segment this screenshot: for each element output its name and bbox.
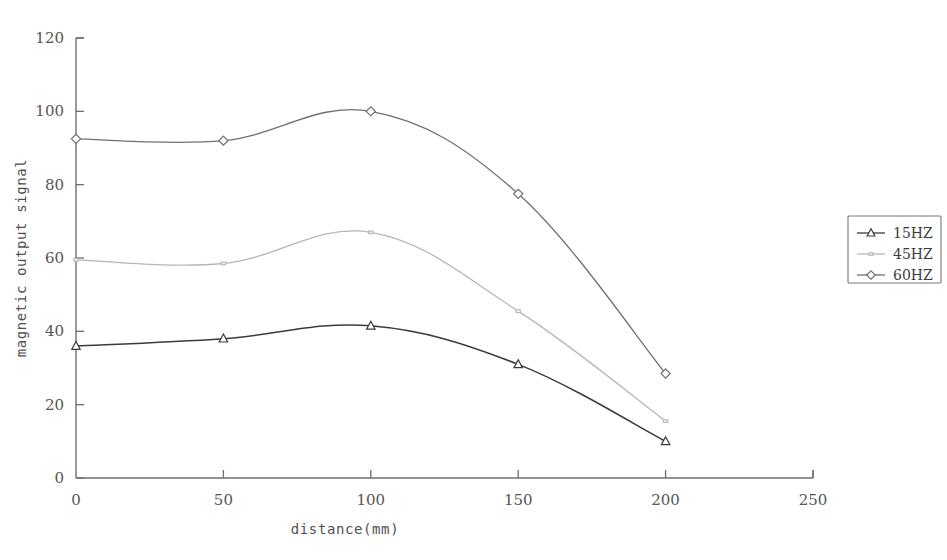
data-point-marker — [516, 310, 520, 313]
data-point-marker — [663, 420, 667, 423]
y-axis-title: magnetic output signal — [13, 159, 29, 358]
y-tick-label: 0 — [54, 469, 64, 487]
y-tick-label: 120 — [35, 29, 64, 47]
y-tick-label: 100 — [35, 102, 64, 120]
x-axis-title: distance(mm) — [291, 521, 399, 537]
x-tick-label: 50 — [214, 491, 233, 509]
y-tick-label: 60 — [45, 249, 64, 267]
data-point-marker — [74, 259, 78, 262]
legend-item-label: 45HZ — [893, 246, 933, 262]
x-tick-label: 0 — [71, 491, 81, 509]
legend-item-label: 60HZ — [893, 267, 933, 283]
chart-legend[interactable]: 15HZ45HZ60HZ — [848, 216, 941, 283]
x-tick-label: 200 — [651, 491, 680, 509]
x-tick-label: 250 — [799, 491, 828, 509]
legend-item-label: 15HZ — [893, 225, 933, 241]
chart-background — [0, 0, 947, 560]
data-point-marker — [869, 253, 873, 255]
y-tick-label: 80 — [45, 176, 64, 194]
data-point-marker — [369, 231, 373, 234]
data-point-marker — [221, 262, 225, 265]
magnetic-output-signal-line-chart: 020406080100120 050100150200250 magnetic… — [0, 0, 947, 560]
y-tick-label: 20 — [45, 396, 64, 414]
x-tick-label: 150 — [504, 491, 533, 509]
y-tick-label: 40 — [45, 322, 64, 340]
x-tick-label: 100 — [356, 491, 385, 509]
